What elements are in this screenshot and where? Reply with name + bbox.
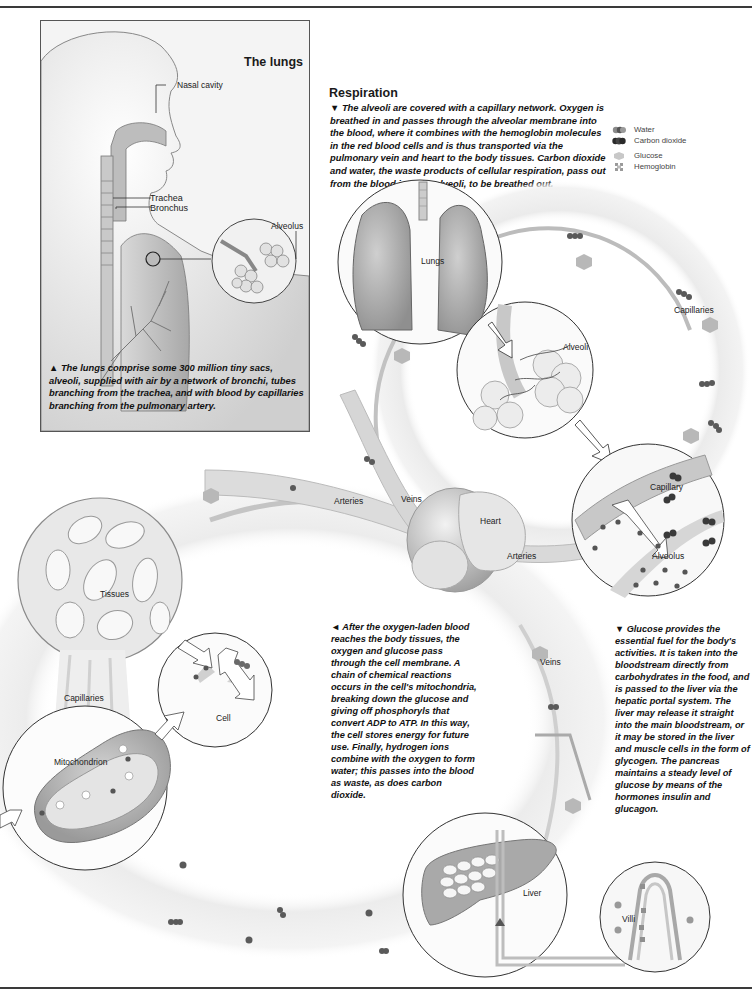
carbon-dioxide-molecule-icon	[612, 137, 626, 145]
lungs-caption: ▲ The lungs comprise some 300 million ti…	[49, 362, 305, 412]
label-alveolus: Alveolus	[271, 221, 303, 231]
capillary-alveolus-circle	[572, 444, 724, 596]
legend: Water Carbon dioxide Glucose Hemoglobin	[612, 124, 686, 172]
label-nasal-cavity: Nasal cavity	[177, 80, 223, 90]
liver-zoom-circle	[403, 813, 567, 977]
caption-marker-left: ◄	[331, 622, 340, 632]
caption-marker-up: ▲	[49, 362, 58, 373]
lungs-caption-text: The lungs comprise some 300 million tiny…	[49, 362, 304, 411]
label-bronchus: Bronchus	[150, 203, 188, 213]
heart-illustration	[407, 488, 525, 592]
legend-item-water: Water	[612, 124, 686, 135]
glucose-caption-text: Glucose provides the essential fuel for …	[615, 624, 750, 814]
hemoglobin-icon	[612, 163, 626, 171]
glucose-hexagon-icon	[612, 152, 626, 160]
lungs-panel-title: The lungs	[244, 55, 303, 69]
label-alveolus-circle: Alveolus	[652, 551, 684, 561]
label-capillary: Capillary	[650, 482, 683, 492]
mitochondrion-zoom-circle	[3, 706, 167, 870]
respiration-caption: ▼ The alveoli are covered with a capilla…	[330, 102, 610, 190]
respiration-heading: Respiration	[329, 86, 398, 100]
legend-item-hemoglobin: Hemoglobin	[612, 161, 686, 172]
alveoli-zoom-circle	[457, 302, 593, 438]
label-mitochondrion: Mitochondrion	[54, 757, 107, 767]
label-capillaries-left: Capillaries	[64, 693, 104, 703]
bottom-rule	[0, 987, 752, 989]
cell-zoom-circle	[158, 633, 272, 747]
label-veins-top: Veins	[401, 494, 422, 504]
label-capillaries-right: Capillaries	[674, 305, 714, 315]
glucose-caption: ▼ Glucose provides the essential fuel fo…	[615, 623, 752, 815]
label-veins-lower: Veins	[540, 657, 561, 667]
cell-caption: ◄ After the oxygen-laden blood reaches t…	[331, 621, 479, 801]
caption-marker-down-glucose: ▼	[615, 624, 624, 634]
respiration-caption-text: The alveoli are covered with a capillary…	[330, 102, 606, 189]
villi-zoom-circle	[600, 862, 710, 972]
top-rule	[0, 6, 752, 8]
label-arteries-right: Arteries	[507, 551, 536, 561]
label-alveoli: Alveoli	[563, 342, 588, 352]
tissues-network	[18, 498, 182, 720]
label-heart: Heart	[480, 516, 501, 526]
label-tissues: Tissues	[100, 589, 129, 599]
label-arteries-left: Arteries	[334, 496, 363, 506]
pulmonary-ring	[370, 180, 750, 560]
label-trachea: Trachea	[150, 193, 183, 203]
label-villi: Villi	[622, 914, 635, 924]
legend-item-glucose: Glucose	[612, 150, 686, 161]
water-molecule-icon	[612, 126, 626, 134]
label-liver: Liver	[523, 888, 541, 898]
legend-item-carbon-dioxide: Carbon dioxide	[612, 135, 686, 146]
lungs-zoom-circle	[338, 180, 502, 344]
caption-marker-down: ▼	[330, 102, 339, 113]
cell-caption-text: After the oxygen-laden blood reaches the…	[331, 622, 477, 800]
lungs-panel: The lungs Nasal cavity Trachea Bronchus …	[40, 20, 310, 432]
label-lungs: Lungs	[421, 256, 444, 266]
label-cell: Cell	[216, 713, 231, 723]
